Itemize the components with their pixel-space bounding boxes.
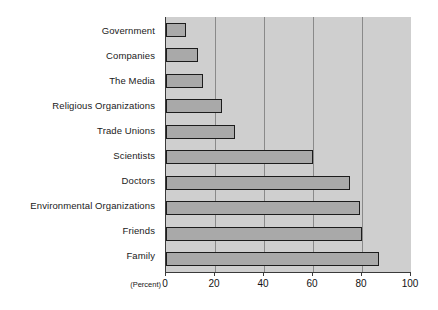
bar (166, 48, 198, 62)
bar (166, 23, 186, 37)
x-axis-tick-label: 80 (355, 278, 366, 289)
category-label: Doctors (122, 175, 155, 186)
bar (166, 125, 235, 139)
x-axis-tick (263, 272, 264, 276)
category-label: The Media (109, 75, 155, 86)
x-axis-tick (214, 272, 215, 276)
category-label: Trade Unions (97, 125, 155, 136)
x-axis-unit-label: (Percent) (130, 280, 161, 289)
plot-area (165, 17, 411, 273)
bar (166, 201, 360, 215)
x-axis-tick-label: 100 (402, 278, 419, 289)
x-axis-tick-label: 40 (257, 278, 268, 289)
x-axis-tick (165, 272, 166, 276)
bar-chart: Government Companies The Media Religious… (0, 0, 438, 310)
bar (166, 74, 203, 88)
x-axis-tick (361, 272, 362, 276)
x-axis-tick-label: 20 (208, 278, 219, 289)
category-label: Environmental Organizations (30, 200, 155, 211)
x-axis-tick (410, 272, 411, 276)
bar (166, 252, 379, 266)
x-axis-tick-label: 60 (306, 278, 317, 289)
bar (166, 99, 222, 113)
category-label: Family (126, 250, 155, 261)
x-axis-tick (312, 272, 313, 276)
gridline (362, 17, 363, 272)
category-label: Government (102, 25, 155, 36)
category-label: Companies (106, 50, 155, 61)
category-label: Religious Organizations (52, 100, 155, 111)
bar (166, 227, 362, 241)
category-label: Friends (123, 225, 155, 236)
bar (166, 150, 313, 164)
category-label: Scientists (113, 150, 155, 161)
x-axis-tick-label: 0 (162, 278, 168, 289)
bar (166, 176, 350, 190)
category-axis-labels: Government Companies The Media Religious… (0, 17, 160, 272)
